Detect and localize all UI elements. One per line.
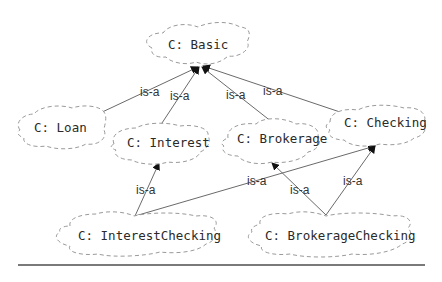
node-brokeragechecking[interactable]: C: BrokerageChecking [248, 212, 415, 257]
class-diagram: is-a is-a is-a is-a is-a is-a is-a is-a … [0, 0, 442, 282]
node-interest[interactable]: C: Interest [111, 123, 210, 164]
edge-label: is-a [136, 183, 156, 197]
node-interestchecking[interactable]: C: InterestChecking [56, 212, 221, 256]
node-label: C: Basic [168, 37, 228, 52]
node-checking[interactable]: C: Checking [326, 105, 427, 146]
node-label: C: Loan [34, 120, 87, 135]
edge-label: is-a [226, 88, 246, 102]
node-basic[interactable]: C: Basic [147, 22, 250, 64]
node-label: C: BrokerageChecking [265, 228, 416, 243]
node-loan[interactable]: C: Loan [18, 106, 106, 149]
edge-label: is-a [263, 84, 283, 98]
node-label: C: Checking [344, 115, 427, 130]
node-brokerage[interactable]: C: Brokerage [222, 119, 327, 164]
edge-label: is-a [140, 85, 160, 99]
edge-label: is-a [290, 183, 310, 197]
edge-label: is-a [170, 89, 190, 103]
node-label: C: Brokerage [237, 131, 327, 146]
edge-label: is-a [247, 174, 267, 188]
edge-label: is-a [343, 174, 363, 188]
node-label: C: Interest [127, 135, 210, 150]
node-label: C: InterestChecking [78, 228, 221, 243]
